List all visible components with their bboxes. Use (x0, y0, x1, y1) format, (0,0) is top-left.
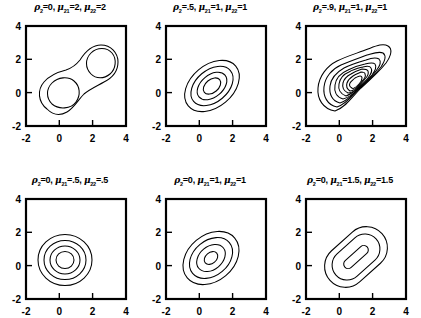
ytick-label-4: 4 (295, 194, 301, 205)
mu1-value: =1, (211, 2, 223, 12)
contour-3 (50, 246, 80, 274)
contour-set (175, 50, 249, 122)
panel-5-title: ρ2=0, μ21=1, μ22=1 (140, 175, 280, 187)
rho-value: =0, (316, 175, 328, 185)
contour-1 (38, 235, 92, 286)
axis-frame (166, 26, 266, 126)
ytick-label-neg2: -2 (292, 121, 301, 132)
xtick-label-neg2: -2 (302, 133, 311, 144)
ytick-label-0: 0 (155, 88, 161, 99)
rho-value: =.5, (182, 2, 196, 12)
contour-set (172, 220, 249, 295)
ytick-label-neg2: -2 (152, 294, 161, 305)
contour-3-slit (342, 244, 370, 271)
panel-4-plot: 4 2 0 -2 -2 0 2 4 (0, 189, 140, 318)
xtick-label-neg2: -2 (22, 306, 31, 317)
xtick-label-0: 0 (57, 133, 63, 144)
contour-1 (175, 50, 249, 122)
panel-6: ρ2=0, μ21=1.5, μ22=1.5 4 2 0 (280, 155, 420, 318)
contour-lobe-upper (87, 49, 116, 78)
panel-1: ρ2=0, μ21=2, μ22=2 (0, 0, 140, 155)
panel-grid: ρ2=0, μ21=2, μ22=2 (0, 0, 421, 318)
panel-3: ρ2=.9, μ21=1, μ22=1 4 2 0 (280, 0, 420, 155)
ytick-label-2: 2 (15, 227, 21, 238)
xtick-label-2: 2 (370, 133, 376, 144)
mu2-value: =1 (377, 2, 387, 12)
rho-value: =.9, (322, 2, 336, 12)
contour-2 (183, 58, 240, 113)
panel-4-title: ρ2=0, μ21=.5, μ22=.5 (0, 175, 140, 187)
contour-2 (181, 229, 240, 287)
panel-2-title: ρ2=.5, μ21=1, μ22=1 (140, 2, 280, 14)
xtick-label-2: 2 (230, 306, 236, 317)
xtick-label-4: 4 (403, 133, 409, 144)
mu1-value: =1.5, (342, 175, 361, 185)
panel-5-plot: 4 2 0 -2 -2 0 2 4 (140, 189, 280, 318)
xtick-label-neg2: -2 (302, 306, 311, 317)
xtick-label-4: 4 (263, 133, 269, 144)
panel-3-svg: 4 2 0 -2 -2 0 2 4 (280, 16, 421, 146)
xtick-label-4: 4 (263, 306, 269, 317)
axis-frame (26, 26, 126, 126)
panel-2: ρ2=.5, μ21=1, μ22=1 4 2 0 (140, 0, 280, 155)
contour-4 (56, 252, 74, 269)
ytick-label-0: 0 (15, 261, 21, 272)
xtick-label-4: 4 (403, 306, 409, 317)
xtick-label-0: 0 (337, 306, 343, 317)
xtick-label-neg2: -2 (22, 133, 31, 144)
ytick-label-4: 4 (155, 21, 161, 32)
rho-value: =0, (183, 175, 195, 185)
ytick-label-neg2: -2 (12, 121, 21, 132)
xtick-label-0: 0 (197, 133, 203, 144)
xtick-label-0: 0 (57, 306, 63, 317)
xtick-label-2: 2 (90, 133, 96, 144)
ytick-label-2: 2 (155, 227, 161, 238)
contour-plot-figure: ρ2=0, μ21=2, μ22=2 (0, 0, 421, 318)
panel-2-svg: 4 2 0 -2 -2 0 2 4 (140, 16, 280, 146)
panel-1-plot: 4 2 0 -2 -2 0 2 4 (0, 16, 140, 146)
contour-lobe-lower (48, 78, 80, 108)
xtick-label-4: 4 (123, 306, 129, 317)
xtick-label-2: 2 (90, 306, 96, 317)
ytick-label-2: 2 (155, 54, 161, 65)
ytick-label-4: 4 (15, 21, 21, 32)
ytick-label-4: 4 (295, 21, 301, 32)
ytick-label-2: 2 (295, 227, 301, 238)
panel-3-plot: 4 2 0 -2 -2 0 2 4 (280, 16, 420, 146)
axis-frame (306, 199, 406, 299)
xtick-label-4: 4 (123, 133, 129, 144)
panel-6-plot: 4 2 0 -2 -2 0 2 4 (280, 189, 420, 318)
mu1-value: =1, (209, 175, 221, 185)
ytick-label-0: 0 (295, 88, 301, 99)
panel-5: ρ2=0, μ21=1, μ22=1 4 2 0 (140, 155, 280, 318)
contour-4 (202, 249, 221, 267)
xtick-label-neg2: -2 (162, 133, 171, 144)
rho-value: =0, (41, 175, 53, 185)
ytick-label-4: 4 (15, 194, 21, 205)
ytick-label-neg2: -2 (152, 121, 161, 132)
panel-5-svg: 4 2 0 -2 -2 0 2 4 (140, 189, 280, 318)
mu1-value: =2, (69, 2, 81, 12)
ytick-label-2: 2 (15, 54, 21, 65)
contour-2 (326, 228, 386, 286)
contour-set (316, 218, 396, 296)
contour-set (318, 45, 391, 111)
panel-4-svg: 4 2 0 -2 -2 0 2 4 (0, 189, 140, 318)
mu1-value: =1, (351, 2, 363, 12)
mu2-value: =2 (96, 2, 106, 12)
panel-6-svg: 4 2 0 -2 -2 0 2 4 (280, 189, 421, 318)
panel-4: ρ2=0, μ21=.5, μ22=.5 4 2 0 (0, 155, 140, 318)
mu2-value: =1 (237, 2, 247, 12)
ytick-label-0: 0 (15, 88, 21, 99)
ytick-label-neg2: -2 (12, 294, 21, 305)
contour-set (38, 235, 92, 286)
ytick-label-0: 0 (295, 261, 301, 272)
mu2-value: =1.5 (376, 175, 393, 185)
panel-6-title: ρ2=0, μ21=1.5, μ22=1.5 (280, 175, 420, 187)
contour-3 (191, 239, 230, 277)
xtick-label-0: 0 (197, 306, 203, 317)
panel-1-svg: 4 2 0 -2 -2 0 2 4 (0, 16, 140, 146)
contour-1 (316, 218, 396, 296)
panel-2-plot: 4 2 0 -2 -2 0 2 4 (140, 16, 280, 146)
axis-frame (166, 199, 266, 299)
